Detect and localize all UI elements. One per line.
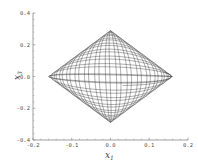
tick-labels: -0.2-0.10.00.10.20.40.20.0-0.2-0.4	[17, 10, 193, 148]
x-tick-label: 0.1	[144, 142, 154, 148]
y-tick-label: -0.2	[17, 105, 30, 111]
y-axis-label: x3	[12, 71, 23, 80]
x-tick-label: -0.1	[65, 142, 78, 148]
y-tick-label: -0.4	[17, 137, 31, 143]
x-axis-label: x1	[105, 150, 114, 161]
x-tick-label: 0.0	[106, 142, 116, 148]
y-tick-label: 0.4	[20, 10, 31, 16]
phase-portrait-chart: -0.2-0.10.00.10.20.40.20.0-0.2-0.4 x1 x3	[0, 0, 198, 165]
trajectory-curve	[49, 31, 173, 123]
x-tick-label: 0.2	[183, 142, 193, 148]
trajectory-path	[49, 31, 173, 123]
y-tick-label: 0.2	[20, 42, 30, 48]
